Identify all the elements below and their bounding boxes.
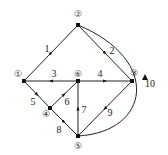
graph-canvas: 12345678910 ①②③④⑤⑥ bbox=[0, 0, 168, 155]
edge-3: 3 bbox=[24, 68, 78, 81]
edge-label: 9 bbox=[108, 107, 113, 118]
node-dot bbox=[76, 79, 80, 83]
edge-5: 5 bbox=[24, 81, 50, 108]
edge-4: 4 bbox=[78, 68, 132, 81]
edge-label: 6 bbox=[65, 96, 70, 107]
edge-label: 7 bbox=[82, 104, 87, 115]
node-label: ② bbox=[74, 9, 82, 19]
node-2: ② bbox=[74, 9, 82, 27]
edge-7: 7 bbox=[78, 81, 87, 136]
edges-layer: 12345678910 bbox=[24, 25, 155, 136]
node-label: ① bbox=[14, 69, 22, 79]
edge-label: 4 bbox=[98, 68, 103, 79]
node-4: ④ bbox=[42, 106, 52, 119]
edge-label: 3 bbox=[52, 68, 57, 79]
edge-2: 2 bbox=[78, 25, 132, 81]
node-5: ⑤ bbox=[74, 134, 82, 151]
node-3: ③ bbox=[130, 68, 138, 83]
edge-8: 8 bbox=[50, 108, 78, 136]
node-dot bbox=[76, 134, 80, 138]
node-dot bbox=[22, 79, 26, 83]
node-label: ⑤ bbox=[74, 141, 82, 151]
edge-label: 10 bbox=[145, 78, 155, 89]
node-label: ③ bbox=[130, 68, 138, 78]
node-dot bbox=[76, 23, 80, 27]
edge-label: 8 bbox=[57, 124, 62, 135]
edge-label: 1 bbox=[45, 43, 50, 54]
nodes-layer: ①②③④⑤⑥ bbox=[14, 9, 138, 151]
edge-6: 6 bbox=[50, 81, 78, 108]
node-dot bbox=[130, 79, 134, 83]
node-label: ④ bbox=[42, 109, 50, 119]
node-label: ⑥ bbox=[74, 69, 82, 79]
node-1: ① bbox=[14, 69, 26, 83]
edge-label: 5 bbox=[31, 96, 36, 107]
